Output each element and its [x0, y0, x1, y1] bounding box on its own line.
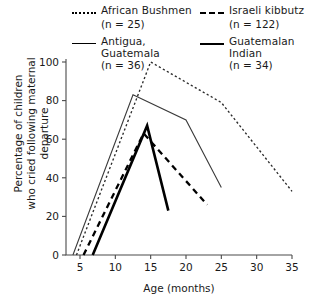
y-tick-label: 40: [46, 172, 59, 184]
legend-swatch-thin-solid-line-icon: [72, 39, 96, 49]
chart-canvas: 0204060801005101520253035: [0, 54, 323, 300]
x-tick-label: 35: [285, 261, 298, 273]
axis-lines: [66, 59, 292, 255]
x-tick-label: 25: [215, 261, 228, 273]
legend-swatch-dashed-line-icon: [200, 8, 224, 18]
legend-entry-african-bushmen: African Bushmen (n = 25): [72, 4, 192, 31]
series-line-guatemalan-indian: [93, 126, 169, 255]
chart-figure: African Bushmen (n = 25) Antigua, Guatem…: [0, 0, 323, 300]
plot-area: Percentage of children who cried followi…: [0, 54, 323, 300]
legend-entry-israeli-kibbutz: Israeli kibbutz (n = 122): [200, 4, 323, 31]
y-tick-label: 100: [39, 56, 59, 68]
x-tick-label: 10: [109, 261, 122, 273]
legend-label-israeli-kibbutz: Israeli kibbutz: [229, 4, 304, 16]
y-tick-label: 20: [46, 210, 59, 222]
legend-label-african-bushmen: African Bushmen: [101, 4, 192, 16]
x-tick-label: 20: [179, 261, 192, 273]
x-tick-label: 30: [250, 261, 263, 273]
y-tick-label: 0: [52, 249, 59, 261]
x-tick-label: 15: [144, 261, 157, 273]
legend-swatch-dotted-line-icon: [72, 8, 96, 18]
chart-legend: African Bushmen (n = 25) Antigua, Guatem…: [0, 0, 323, 54]
series-line-israeli-kibbutz: [84, 133, 208, 255]
legend-n-african-bushmen: (n = 25): [101, 18, 192, 31]
y-tick-label: 60: [46, 133, 59, 145]
legend-swatch-thick-solid-line-icon: [200, 39, 224, 49]
y-tick-label: 80: [46, 94, 59, 106]
legend-n-israeli-kibbutz: (n = 122): [229, 18, 323, 31]
x-axis-label: Age (months): [66, 282, 292, 294]
x-tick-label: 5: [77, 261, 84, 273]
